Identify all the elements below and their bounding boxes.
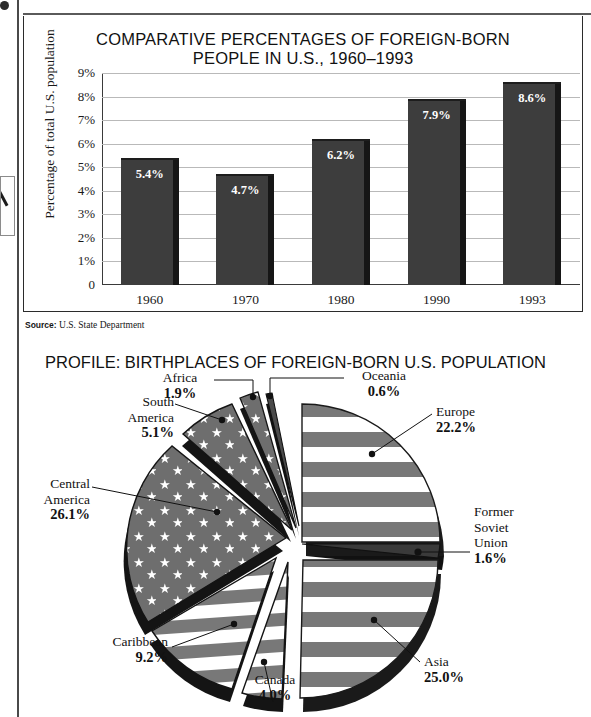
bar-top-cap — [312, 139, 370, 141]
bar-chart-title: COMPARATIVE PERCENTAGES OF FOREIGN-BORN … — [24, 30, 582, 68]
pie-label-south-america-name: South America — [90, 394, 174, 425]
pie-label-central-america-pct: 26.1% — [6, 507, 90, 523]
pie-label-canada: Canada 4.0% — [240, 672, 310, 703]
pie-label-caribbean: Caribbean 9.2% — [56, 634, 168, 665]
bar: 4.7% — [216, 174, 274, 285]
pie-label-south-america-pct: 5.1% — [90, 425, 174, 441]
pie-label-central-america: Central America 26.1% — [6, 476, 90, 523]
pie-label-canada-pct: 4.0% — [240, 688, 310, 704]
pie-label-asia-name: Asia — [424, 654, 514, 670]
pie-label-asia: Asia 25.0% — [424, 654, 514, 685]
bar-value-label: 7.9% — [408, 108, 466, 123]
pie-label-oceania-pct: 0.6% — [348, 384, 420, 400]
bar-top-cap — [216, 174, 274, 176]
page-top-rule — [23, 13, 591, 15]
bar: 6.2% — [312, 139, 370, 285]
bar-face — [503, 82, 561, 285]
bar-chart-y-axis-title: Percentage of total U.S. population — [42, 24, 58, 224]
x-tick-label: 1960 — [136, 292, 163, 308]
x-tick-label: 1990 — [423, 292, 450, 308]
y-tick-label: 6% — [78, 136, 95, 152]
bar-3d-edge — [555, 82, 561, 285]
pie-label-central-america-name: Central America — [6, 476, 90, 507]
bar-top-cap — [121, 158, 179, 160]
pie-slice-europe — [302, 404, 444, 556]
pie-label-asia-pct: 25.0% — [424, 670, 514, 686]
source-label: Source: — [25, 320, 57, 330]
y-tick-label: 2% — [78, 230, 95, 246]
pie-chart-area: ★ ★ — [0, 372, 591, 717]
pie-label-oceania-name: Oceania — [348, 368, 420, 384]
thumb-index-tab — [0, 176, 15, 236]
pie-label-former-soviet-union: Former Soviet Union 1.6% — [474, 504, 574, 566]
y-tick-label: 1% — [78, 253, 95, 269]
x-tick-label: 1980 — [328, 292, 355, 308]
pie-label-caribbean-name: Caribbean — [56, 634, 168, 650]
pie-label-former-soviet-union-pct: 1.6% — [474, 551, 574, 567]
bar-3d-edge — [460, 99, 466, 285]
bar-top-cap — [503, 82, 561, 84]
bar-chart-title-line2: PEOPLE IN U.S., 1960–1993 — [24, 49, 582, 68]
bar: 8.6% — [503, 82, 561, 285]
bar-face — [408, 99, 466, 285]
bar-chart-plot-area: 9%8%7%6%5%4%3%2%1%0 5.4%4.7%6.2%7.9%8.6%… — [102, 73, 564, 285]
pie-label-canada-name: Canada — [240, 672, 310, 688]
x-tick-label: 1970 — [232, 292, 259, 308]
pie-label-south-america: South America 5.1% — [90, 394, 174, 441]
page-corner-dot — [0, 1, 9, 10]
bar-top-cap — [408, 99, 466, 101]
bar-value-label: 4.7% — [216, 183, 274, 198]
pie-label-former-soviet-union-name: Former Soviet Union — [474, 504, 574, 551]
y-tick-label: 3% — [78, 206, 95, 222]
y-tick-label: 7% — [78, 112, 95, 128]
x-tick-label: 1993 — [519, 292, 546, 308]
y-tick-label: 5% — [78, 159, 95, 175]
gridline — [102, 73, 580, 74]
pie-label-europe-pct: 22.2% — [436, 420, 526, 436]
bar: 5.4% — [121, 158, 179, 285]
bar-value-label: 8.6% — [503, 91, 561, 106]
thumb-index-mark — [0, 186, 8, 207]
source-text: U.S. State Department — [59, 320, 144, 330]
bar-chart-title-line1: COMPARATIVE PERCENTAGES OF FOREIGN-BORN — [24, 30, 582, 49]
y-tick-label: 0 — [89, 277, 96, 293]
pie-label-europe: Europe 22.2% — [436, 404, 526, 435]
bar-chart-panel: COMPARATIVE PERCENTAGES OF FOREIGN-BORN … — [23, 16, 583, 312]
y-axis-line — [102, 73, 103, 285]
y-tick-label: 9% — [78, 65, 95, 81]
bar-value-label: 5.4% — [121, 167, 179, 182]
bar: 7.9% — [408, 99, 466, 285]
pie-chart-title: PROFILE: BIRTHPLACES OF FOREIGN-BORN U.S… — [0, 353, 591, 372]
pie-label-oceania: Oceania 0.6% — [348, 368, 420, 399]
pie-label-africa-name: Africa — [150, 370, 210, 386]
y-tick-label: 8% — [78, 89, 95, 105]
bar-value-label: 6.2% — [312, 148, 370, 163]
pie-slice-asia — [300, 560, 441, 712]
pie-label-caribbean-pct: 9.2% — [56, 650, 168, 666]
bar-chart-source: Source: U.S. State Department — [25, 320, 145, 330]
pie-label-europe-name: Europe — [436, 404, 526, 420]
y-tick-label: 4% — [78, 183, 95, 199]
